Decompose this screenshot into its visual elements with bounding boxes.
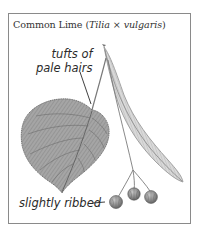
tufts-leader-line (80, 72, 91, 104)
annotation-tufts-line1: tufts of (36, 47, 93, 61)
fruit-cluster-icon (110, 188, 158, 209)
bract-icon (102, 44, 183, 182)
annotation-tufts-line2: pale hairs (36, 61, 93, 75)
annotation-ribbed: slightly ribbed (19, 196, 101, 210)
leaf-petiole-icon (92, 58, 106, 110)
leaf-icon (21, 99, 109, 193)
annotation-tufts: tufts of pale hairs (36, 47, 93, 75)
